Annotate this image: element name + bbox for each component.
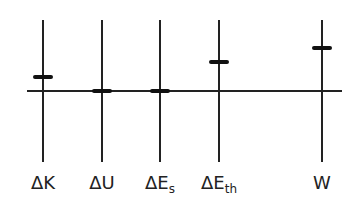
bar-W [312,46,332,50]
label-subscript: th [225,182,237,196]
bar-dK [33,75,53,79]
zero-baseline [27,90,342,92]
label-subscript: s [169,182,175,196]
column-axis-W [321,20,323,162]
label-W: W [313,172,331,193]
label-dEth: ΔEth [201,172,237,196]
label-symbol: ΔE [145,172,169,193]
bar-dEs [150,89,170,93]
bar-dEth [209,60,229,64]
label-dK: ΔK [31,172,55,193]
column-axis-dK [42,20,44,162]
label-dEs: ΔEs [145,172,175,196]
label-symbol: ΔK [31,172,55,193]
bar-dU [92,89,112,93]
label-symbol: ΔE [201,172,225,193]
column-axis-dEth [218,20,220,162]
label-dU: ΔU [89,172,115,193]
label-symbol: W [313,172,331,193]
label-symbol: ΔU [89,172,115,193]
energy-bar-chart: ΔKΔUΔEsΔEthW [0,0,357,204]
